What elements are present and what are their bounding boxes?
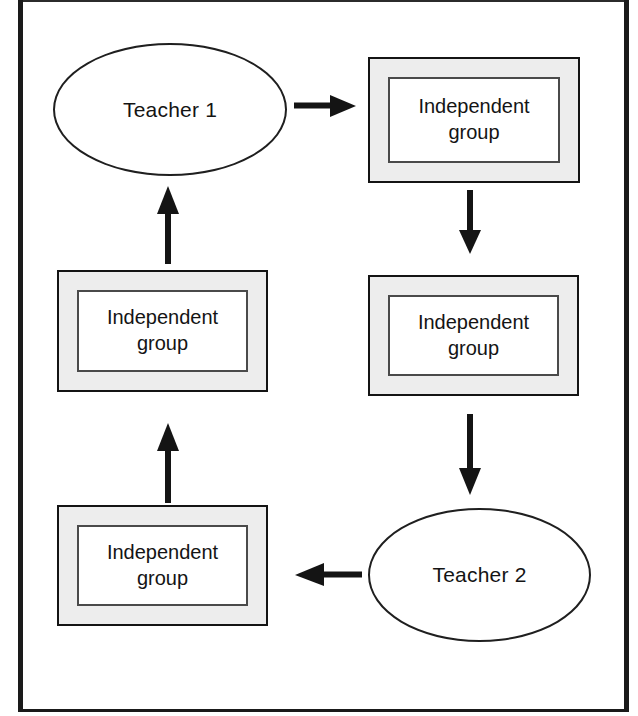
node-independent-group-top-right-inner: Independent group (388, 77, 560, 163)
node-independent-group-middle-left-line1: Independent (107, 305, 218, 331)
frame-border-right (624, 0, 629, 712)
diagram-canvas: Teacher 1 Independent group Independent … (0, 0, 638, 716)
node-independent-group-middle-left: Independent group (57, 270, 268, 392)
node-independent-group-bottom-left-line2: group (137, 566, 188, 592)
node-independent-group-middle-right: Independent group (368, 275, 579, 396)
node-teacher-1-label: Teacher 1 (123, 98, 217, 122)
node-independent-group-bottom-left-inner: Independent group (77, 525, 248, 606)
node-independent-group-bottom-left: Independent group (57, 505, 268, 626)
node-independent-group-middle-right-line1: Independent (418, 310, 529, 336)
node-independent-group-middle-right-inner: Independent group (388, 295, 559, 376)
arrow-up-group-to-teacher1 (154, 184, 182, 264)
frame-border-left (18, 0, 23, 712)
node-independent-group-middle-right-line2: group (448, 336, 499, 362)
node-teacher-1: Teacher 1 (53, 43, 287, 176)
arrow-left-teacher2-to-group (292, 561, 362, 589)
node-independent-group-middle-left-inner: Independent group (77, 290, 248, 372)
arrow-down-group-to-teacher2 (456, 414, 484, 498)
arrow-up-group-to-group-left-lower (154, 421, 182, 503)
frame-border-top (18, 0, 629, 2)
node-independent-group-middle-left-line2: group (137, 331, 188, 357)
node-teacher-2: Teacher 2 (368, 508, 591, 642)
node-teacher-2-label: Teacher 2 (432, 563, 526, 587)
node-independent-group-top-right-line1: Independent (418, 94, 529, 120)
node-independent-group-bottom-left-line1: Independent (107, 540, 218, 566)
frame-border-bottom (18, 709, 629, 712)
arrow-down-group-to-group-right-upper (456, 190, 484, 256)
node-independent-group-top-right-line2: group (448, 120, 499, 146)
arrow-right-teacher1-to-group (294, 92, 360, 120)
node-independent-group-top-right: Independent group (368, 57, 580, 183)
